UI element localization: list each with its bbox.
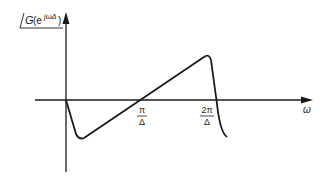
tick-numerator: 2π (201, 105, 212, 115)
y-label-close: ) (58, 15, 61, 26)
y-axis-arrowhead (63, 12, 70, 24)
phase-curve (66, 56, 227, 139)
y-label-open: (e (33, 15, 42, 26)
tick-denominator: Δ (139, 117, 145, 127)
y-label-exponent: jωΔ (43, 12, 57, 21)
tick-pi-over-delta: π Δ (137, 105, 147, 127)
x-axis-label: ω (303, 104, 311, 115)
x-axis-arrowhead (301, 97, 313, 104)
phase-diagram: G (e jωΔ ) ω π Δ 2π Δ (0, 0, 327, 182)
tick-2pi-over-delta: 2π Δ (200, 105, 214, 127)
y-axis-label: G (e jωΔ ) (20, 12, 63, 28)
tick-numerator: π (139, 105, 145, 115)
tick-denominator: Δ (204, 117, 210, 127)
